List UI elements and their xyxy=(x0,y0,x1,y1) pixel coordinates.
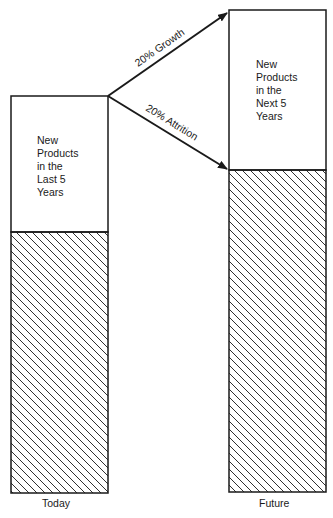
future-caption: Future xyxy=(259,497,289,510)
future-hatched-segment xyxy=(229,170,326,492)
future-top-label: New Products in the Next 5 Years xyxy=(256,58,297,123)
today-top-label: New Products in the Last 5 Years xyxy=(37,134,78,199)
growth-arrow xyxy=(108,13,227,96)
today-hatched-segment xyxy=(11,232,108,493)
today-caption: Today xyxy=(42,497,70,510)
attrition-arrow xyxy=(108,96,227,169)
